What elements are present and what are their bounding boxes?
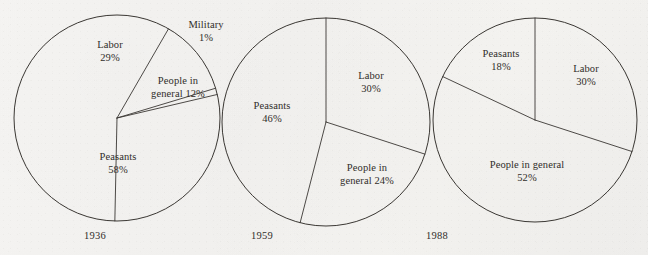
slice-label-1959-labor: Labor30% xyxy=(358,70,384,95)
pie-chart-figure: Labor29%Military1%People ingeneral 12%Pe… xyxy=(0,0,648,255)
slice-label-line2: general 24% xyxy=(340,175,394,188)
slice-divider-1988-people-in-general xyxy=(535,120,632,152)
slice-label-line1: Peasants xyxy=(100,151,137,164)
slice-label-line2: 30% xyxy=(573,76,599,89)
slice-label-line2: 52% xyxy=(490,172,565,185)
slice-label-1959-people-in-general: People ingeneral 24% xyxy=(340,162,394,187)
slice-label-line2: 58% xyxy=(100,164,137,177)
slice-label-1988-peasants: Peasants18% xyxy=(483,48,520,73)
slice-label-line2: 46% xyxy=(254,113,291,126)
slice-divider-1959-people-in-general xyxy=(326,122,425,154)
slice-label-line1: Labor xyxy=(573,63,599,76)
slice-label-line2: 30% xyxy=(358,83,384,96)
slice-label-line1: People in xyxy=(340,162,394,175)
slice-label-1936-military: Military1% xyxy=(188,19,223,44)
slice-label-line1: Peasants xyxy=(254,100,291,113)
slice-label-1988-people-in-general: People in general52% xyxy=(490,159,565,184)
pie-charts-svg xyxy=(0,0,648,255)
slice-label-1988-labor: Labor30% xyxy=(573,63,599,88)
slice-label-line1: Peasants xyxy=(483,48,520,61)
slice-label-line1: People in xyxy=(151,75,205,88)
year-caption-1988: 1988 xyxy=(426,230,448,241)
slice-label-1936-labor: Labor29% xyxy=(97,39,123,64)
year-caption-1936: 1936 xyxy=(84,230,106,241)
slice-label-1959-peasants: Peasants46% xyxy=(254,100,291,125)
slice-label-line2: 1% xyxy=(188,32,223,45)
slice-divider-1988-peasants xyxy=(443,77,535,120)
slice-label-line1: People in general xyxy=(490,159,565,172)
slice-label-line2: 18% xyxy=(483,61,520,74)
slice-label-line2: 29% xyxy=(97,52,123,65)
slice-label-line1: Labor xyxy=(97,39,123,52)
slice-label-line2: general 12% xyxy=(151,88,205,101)
slice-divider-1959-peasants xyxy=(300,122,326,223)
slice-label-line1: Military xyxy=(188,19,223,32)
year-caption-1959: 1959 xyxy=(251,230,273,241)
slice-label-1936-peasants: Peasants58% xyxy=(100,151,137,176)
slice-label-1936-people-in-general: People ingeneral 12% xyxy=(151,75,205,100)
slice-label-line1: Labor xyxy=(358,70,384,83)
